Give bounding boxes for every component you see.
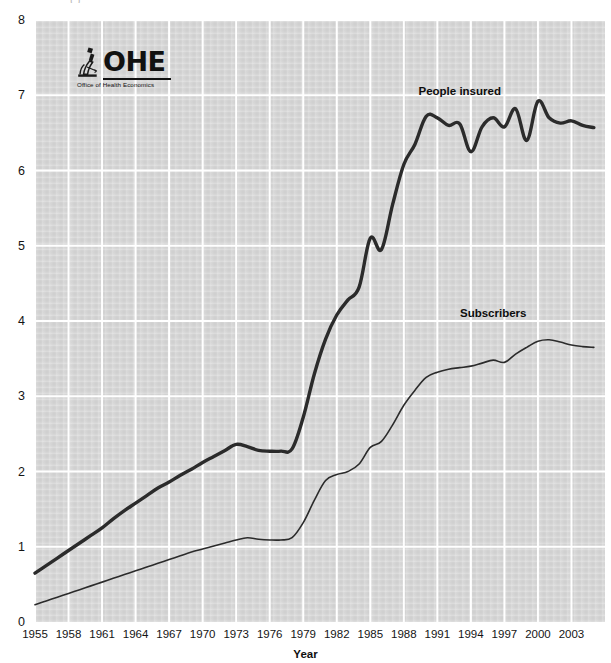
x-tick-label: 1964 (123, 628, 149, 640)
x-tick-label: 1958 (56, 628, 82, 640)
x-tick-label: 2000 (525, 628, 551, 640)
x-tick-label: 1973 (223, 628, 249, 640)
x-tick-label: 1970 (190, 628, 216, 640)
x-tick-label: 1976 (257, 628, 283, 640)
x-tick-label: 1988 (391, 628, 417, 640)
x-tick-label: 1967 (156, 628, 182, 640)
x-tick-label: 1955 (22, 628, 48, 640)
x-tick-label: 1979 (290, 628, 316, 640)
x-tick-label: 1991 (425, 628, 451, 640)
x-axis-title: Year (0, 648, 611, 660)
x-tick-label: 1982 (324, 628, 350, 640)
chart-figure: ( ) OHE Office of Health Economics Peopl… (0, 0, 611, 663)
x-tick-label: 1985 (357, 628, 383, 640)
x-tick-label: 1997 (492, 628, 518, 640)
x-axis-tick-labels: 1955195819611964196719701973197619791982… (0, 0, 611, 663)
x-tick-label: 2003 (559, 628, 585, 640)
x-tick-label: 1994 (458, 628, 484, 640)
x-tick-label: 1961 (89, 628, 115, 640)
